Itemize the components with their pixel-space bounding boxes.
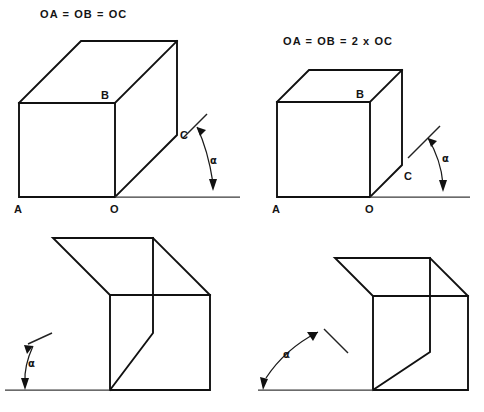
figure-top-left: OA = OB = OC α A O B C <box>14 8 240 215</box>
recede-axis-ray <box>28 333 52 344</box>
front-face-outline <box>110 295 210 390</box>
figure-top-right: OA = OB = 2 x OC α A O B C <box>272 35 470 215</box>
top-and-rear-outline <box>53 238 153 390</box>
figure-top-right-caption: OA = OB = 2 x OC <box>283 35 393 47</box>
figure-bottom-right: α <box>258 258 468 390</box>
angle-arc-arrowhead-upper <box>197 127 206 136</box>
top-right-recede-edge <box>115 41 177 103</box>
vertex-label-b: B <box>356 88 364 100</box>
top-left-recede-edge <box>430 258 468 296</box>
top-and-rear-outline <box>335 258 430 390</box>
angle-arc-arrowhead-lower <box>21 378 29 390</box>
angle-arc <box>428 138 443 184</box>
angle-arc <box>266 332 318 378</box>
angle-label-alpha: α <box>442 153 449 164</box>
vertex-label-c: C <box>180 129 188 141</box>
vertex-label-b: B <box>101 89 109 101</box>
front-face-outline <box>277 102 370 197</box>
front-face-outline <box>19 103 115 197</box>
diagram-sheet: OA = OB = OC α A O B C OA = OB = 2 x OC <box>0 0 484 412</box>
angle-arc-arrowhead-lower <box>209 179 217 191</box>
angle-label-alpha: α <box>28 358 35 369</box>
figure-bottom-left: α <box>5 238 210 390</box>
vertex-label-o: O <box>365 203 374 215</box>
angle-label-alpha: α <box>283 349 290 360</box>
vertex-label-c: C <box>404 170 412 182</box>
angle-arc-arrowhead-lower <box>439 180 447 192</box>
oblique-projection-figure-set: OA = OB = OC α A O B C OA = OB = 2 x OC <box>0 0 484 412</box>
vertex-label-a: A <box>272 203 280 215</box>
front-face-outline <box>373 296 468 390</box>
angle-arc-arrowhead-lower <box>260 377 268 390</box>
vertex-label-o: O <box>110 203 119 215</box>
figure-top-left-caption: OA = OB = OC <box>40 8 127 20</box>
top-right-recede-edge <box>370 70 402 102</box>
top-left-recede-edge <box>153 238 210 295</box>
angle-label-alpha: α <box>210 155 217 166</box>
vertex-label-a: A <box>14 203 22 215</box>
recede-axis-ray <box>324 329 348 353</box>
